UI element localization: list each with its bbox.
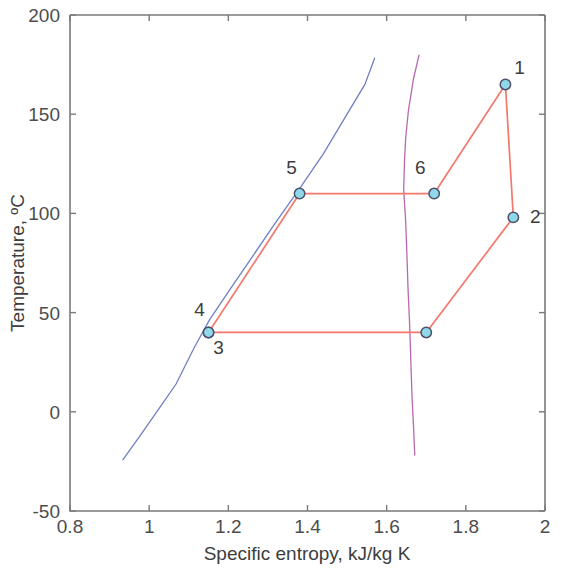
state-point-marker[interactable] xyxy=(421,327,431,337)
saturation-curves-group xyxy=(123,55,419,461)
axes-group xyxy=(70,15,545,511)
refrigeration-cycle xyxy=(209,84,514,332)
saturated-vapor-line xyxy=(404,55,419,456)
state-point-label-5: 5 xyxy=(286,157,297,178)
x-tick-label: 0.8 xyxy=(57,516,83,537)
cycle-path-group xyxy=(209,84,514,332)
y-axis-title: Temperature, ºC xyxy=(7,194,28,332)
state-point-marker-5[interactable] xyxy=(294,188,304,198)
axis-spines xyxy=(70,15,545,511)
y-tick-label: 0 xyxy=(49,402,60,423)
y-tick-label: 150 xyxy=(28,104,60,125)
x-tick-label: 2 xyxy=(540,516,551,537)
state-point-markers-group xyxy=(203,79,518,337)
state-point-marker-6[interactable] xyxy=(429,188,439,198)
state-point-label-4: 4 xyxy=(194,299,205,320)
x-axis-title: Specific entropy, kJ/kg K xyxy=(204,543,411,564)
state-point-marker-4[interactable] xyxy=(203,327,213,337)
saturated-liquid-line xyxy=(123,58,375,461)
state-point-label-1: 1 xyxy=(514,57,525,78)
x-tick-label: 1.8 xyxy=(453,516,479,537)
state-point-marker-1[interactable] xyxy=(500,79,510,89)
state-point-label-6: 6 xyxy=(415,157,426,178)
state-point-label-3: 3 xyxy=(213,337,224,358)
y-tick-label: -50 xyxy=(33,501,60,522)
x-tick-label: 1 xyxy=(144,516,155,537)
x-tick-label: 1.6 xyxy=(373,516,399,537)
chart-root: 0.811.21.41.61.82-50050100150200 123456 … xyxy=(0,0,563,568)
state-point-marker-2[interactable] xyxy=(508,212,518,222)
y-tick-label: 100 xyxy=(28,203,60,224)
y-tick-label: 200 xyxy=(28,5,60,26)
x-tick-label: 1.4 xyxy=(294,516,321,537)
x-tick-label: 1.2 xyxy=(215,516,241,537)
y-tick-label: 50 xyxy=(39,303,60,324)
temperature-entropy-chart: 0.811.21.41.61.82-50050100150200 123456 … xyxy=(0,0,563,568)
state-point-labels-group: 123456 xyxy=(194,57,540,358)
state-point-label-2: 2 xyxy=(530,206,541,227)
